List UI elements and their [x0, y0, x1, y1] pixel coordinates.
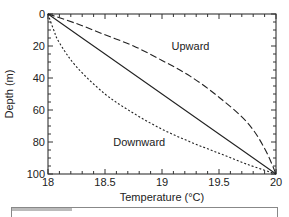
x-tick-label: 20 [270, 176, 282, 188]
y-tick-label: 80 [33, 136, 45, 148]
x-tick-label: 18.5 [94, 176, 115, 188]
bottom-panel-frame [11, 207, 278, 217]
x-tick-label: 19 [156, 176, 168, 188]
x-axis-title: Temperature (°C) [120, 191, 204, 203]
panel-tab [12, 208, 72, 211]
depth-temperature-chart: 1818.51919.520020406080100UpwardDownward… [0, 0, 289, 217]
y-tick-label: 20 [33, 40, 45, 52]
annotation-upward: Upward [172, 40, 210, 52]
annotation-downward: Downward [113, 136, 165, 148]
y-tick-label: 60 [33, 104, 45, 116]
y-tick-label: 100 [27, 168, 45, 180]
y-tick-label: 40 [33, 72, 45, 84]
y-tick-label: 0 [39, 8, 45, 20]
plot-area: 1818.51919.520020406080100UpwardDownward [27, 8, 282, 188]
x-tick-label: 19.5 [208, 176, 229, 188]
y-axis-title: Depth (m) [3, 70, 15, 119]
linear-profile-line [48, 14, 276, 174]
